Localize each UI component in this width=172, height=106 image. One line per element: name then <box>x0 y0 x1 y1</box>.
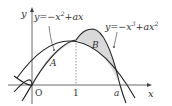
region-b-label: B <box>91 40 99 50</box>
parabola-eq-tail: +ax <box>64 11 84 22</box>
region-a-label: A <box>49 58 57 68</box>
cubic-leader-dot <box>113 46 115 48</box>
parabola-eq-main: y=−x <box>33 11 61 22</box>
y-axis-label: y <box>20 8 27 19</box>
cubic-eq-main: y=−x <box>104 21 132 32</box>
cubic-eq-tail: +ax <box>135 21 155 32</box>
cubic-leader-line <box>114 32 117 46</box>
cubic-equation-label: y=−x3+ax2 <box>104 20 158 32</box>
x-axis-arrow-icon <box>147 83 152 87</box>
x-axis-label: x <box>148 88 154 99</box>
origin-label: O <box>35 88 42 98</box>
tick-label-one: 1 <box>73 88 79 98</box>
cubic-eq-sup2: 2 <box>153 20 158 27</box>
parabola-equation-label: y=−x2+ax <box>33 10 84 22</box>
function-graph: y x O 1 a A B y=−x2+ax y=−x3+ax2 <box>0 0 172 106</box>
parabola-leader-dot <box>53 49 55 51</box>
region-b-fill <box>76 29 120 85</box>
tick-label-a: a <box>114 88 119 98</box>
